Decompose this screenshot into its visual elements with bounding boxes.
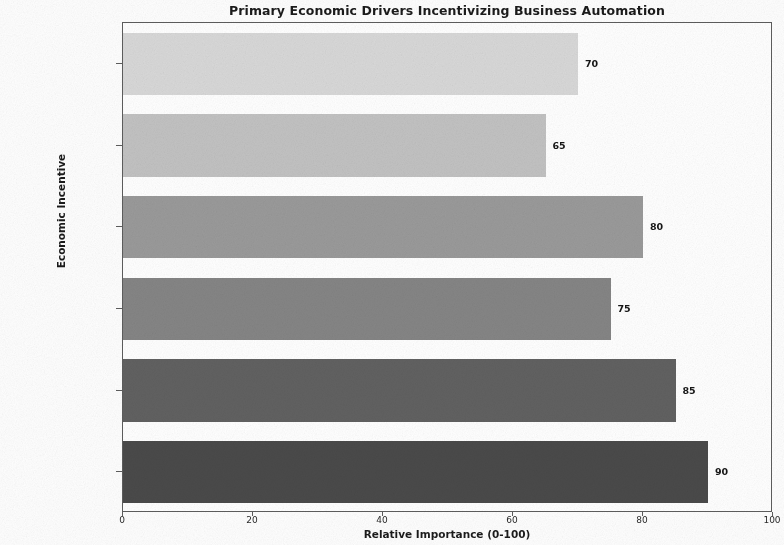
y-axis-tick-mark xyxy=(116,390,122,391)
y-axis-tick-mark xyxy=(116,471,122,472)
bar-value-label: 85 xyxy=(683,385,696,396)
x-axis-tick-label: 20 xyxy=(246,515,257,525)
y-axis-tick-mark xyxy=(116,226,122,227)
y-axis-tick-mark xyxy=(116,63,122,64)
bar-productivity-gains xyxy=(123,359,676,421)
bar-value-label: 70 xyxy=(585,58,598,69)
bar-cost-reduction xyxy=(123,441,708,503)
chart-title: Primary Economic Drivers Incentivizing B… xyxy=(122,3,772,18)
chart-figure: Primary Economic Drivers Incentivizing B… xyxy=(0,0,784,545)
plot-area: 706580758590 xyxy=(122,22,772,512)
bars-layer: 706580758590 xyxy=(123,23,771,511)
x-axis-tick-label: 80 xyxy=(636,515,647,525)
bar-value-label: 65 xyxy=(553,140,566,151)
y-axis-title: Economic Incentive xyxy=(55,146,67,276)
y-axis-tick-mark xyxy=(116,308,122,309)
bar-competitive-advantage xyxy=(123,196,643,258)
bar-quality-improvement xyxy=(123,278,611,340)
bar-risk-reduction xyxy=(123,114,546,176)
x-axis-tick-label: 100 xyxy=(763,515,780,525)
bar-value-label: 80 xyxy=(650,221,663,232)
x-axis-tick-label: 0 xyxy=(119,515,125,525)
bar-value-label: 90 xyxy=(715,466,728,477)
bar-scalability xyxy=(123,33,578,95)
x-axis-tick-label: 60 xyxy=(506,515,517,525)
x-axis-title: Relative Importance (0-100) xyxy=(122,528,772,540)
bar-value-label: 75 xyxy=(618,303,631,314)
y-axis-tick-mark xyxy=(116,145,122,146)
x-axis-tick-label: 40 xyxy=(376,515,387,525)
